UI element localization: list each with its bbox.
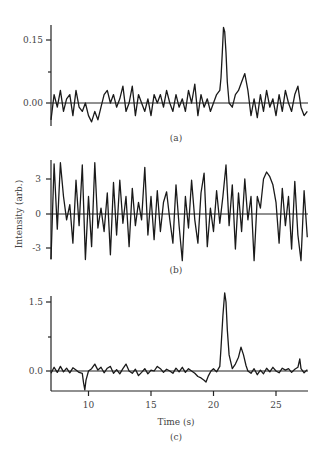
panel-b: 3 0 -3 Intensity (arb.) (b) [14,160,308,275]
trace-c [51,293,307,390]
x-tick-label-c-2: 20 [208,400,220,410]
panel-c: 1.5 0.0 10 15 20 25 Time (s) (c) [29,293,308,442]
panel-label-b: (b) [170,265,183,275]
x-tick-label-c-3: 25 [270,400,282,410]
y-tick-label-a-2: 0.00 [23,98,43,108]
x-axis-title: Time (s) [157,417,194,427]
y-tick-label-b-2: -3 [32,243,41,253]
trace-a [51,27,307,122]
panel-label-a: (a) [170,133,182,143]
y-tick-label-b-0: 3 [35,174,41,184]
panel-label-c: (c) [170,432,182,442]
y-axis-title: Intensity (arb.) [14,180,24,248]
y-tick-label-c-2: 0.0 [29,366,44,376]
trace-b [51,163,307,261]
x-tick-label-c-1: 15 [145,400,157,410]
figure: 0.15 0.00 (a) 3 0 -3 Intensity (arb.) (b… [0,0,325,463]
x-tick-label-c-0: 10 [83,400,95,410]
y-tick-label-c-0: 1.5 [29,297,44,307]
y-tick-label-b-1: 0 [35,209,41,219]
y-tick-label-a-0: 0.15 [23,35,43,45]
panel-a: 0.15 0.00 (a) [23,25,308,143]
